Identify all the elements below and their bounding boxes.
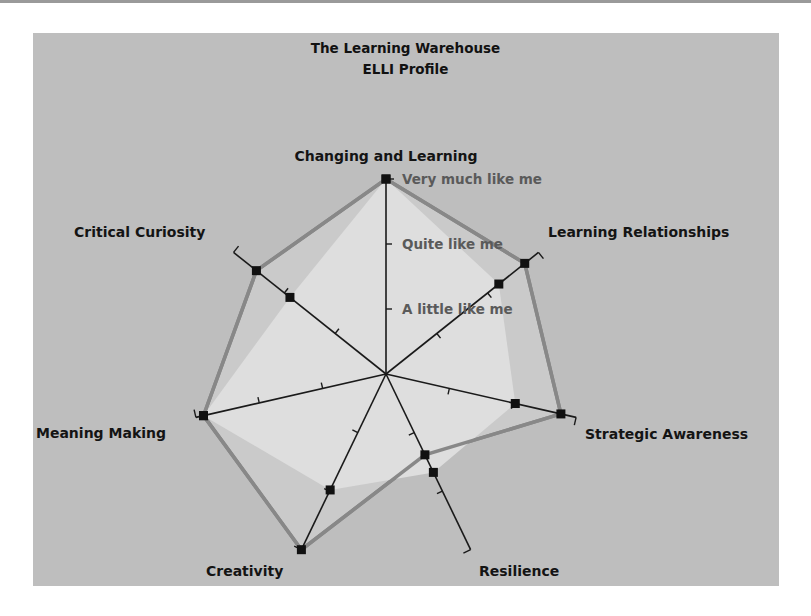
radar-chart: A little like meQuite like meVery much l… xyxy=(0,0,811,616)
scale-label: A little like me xyxy=(402,301,513,317)
category-label-critical-curiosity: Critical Curiosity xyxy=(74,224,205,240)
axis-tick xyxy=(538,252,543,258)
category-label-resilience: Resilience xyxy=(479,563,559,579)
data-marker xyxy=(285,293,294,302)
scale-label: Very much like me xyxy=(402,171,542,187)
category-label-learning-relationships: Learning Relationships xyxy=(548,224,729,240)
axis-tick xyxy=(234,246,239,252)
axis-tick xyxy=(194,410,196,418)
data-marker xyxy=(326,485,335,494)
axis-tick xyxy=(574,417,576,425)
category-label-changing-and-learning: Changing and Learning xyxy=(294,148,477,164)
data-marker xyxy=(511,399,520,408)
axis-tick xyxy=(463,550,470,553)
data-marker xyxy=(494,280,503,289)
data-marker xyxy=(297,545,306,554)
data-marker xyxy=(199,411,208,420)
axis-tick xyxy=(437,491,442,494)
category-label-strategic-awareness: Strategic Awareness xyxy=(585,426,748,442)
data-marker xyxy=(520,259,529,268)
data-marker xyxy=(420,450,429,459)
data-marker xyxy=(382,175,391,184)
category-label-creativity: Creativity xyxy=(206,563,283,579)
category-label-meaning-making: Meaning Making xyxy=(36,425,166,441)
scale-label: Quite like me xyxy=(402,236,503,252)
data-marker xyxy=(429,468,438,477)
data-marker xyxy=(252,266,261,275)
data-marker xyxy=(556,409,565,418)
